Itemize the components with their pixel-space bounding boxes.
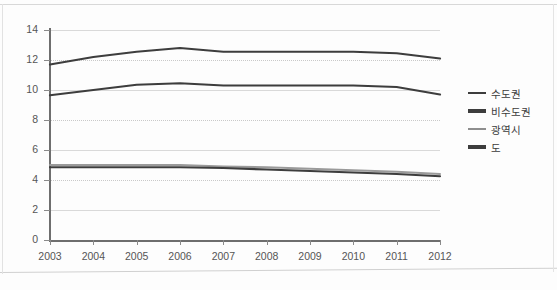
- legend-label: 도: [491, 140, 501, 155]
- legend-swatch-icon: [468, 92, 486, 95]
- legend-item[interactable]: 비수도권: [468, 102, 552, 120]
- legend-label: 비수도권: [491, 104, 531, 119]
- chart-legend: 수도권비수도권광역시도: [468, 84, 552, 156]
- series-line: [50, 48, 440, 65]
- chart-container: 14121086420 2003200420052006200720082009…: [0, 0, 557, 290]
- series-line: [50, 83, 440, 95]
- legend-item[interactable]: 수도권: [468, 84, 552, 102]
- legend-item[interactable]: 도: [468, 138, 552, 156]
- legend-swatch-icon: [468, 145, 486, 149]
- legend-swatch-icon: [468, 109, 486, 113]
- legend-label: 광역시: [491, 122, 521, 137]
- legend-swatch-icon: [468, 128, 486, 131]
- legend-item[interactable]: 광역시: [468, 120, 552, 138]
- legend-label: 수도권: [491, 86, 521, 101]
